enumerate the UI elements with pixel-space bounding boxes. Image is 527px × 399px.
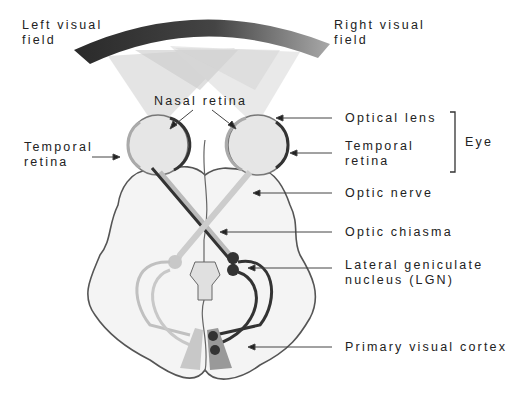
label-optic-chiasma: Optic chiasma bbox=[345, 225, 453, 240]
label-lgn: Lateral geniculate nucleus (LGN) bbox=[345, 258, 483, 288]
label-nasal-retina: Nasal retina bbox=[154, 94, 247, 109]
cortex-dot-a bbox=[208, 331, 218, 341]
cortex-dot-b bbox=[210, 345, 220, 355]
right-eye bbox=[226, 115, 288, 175]
label-eye: Eye bbox=[465, 135, 493, 150]
label-temporal-retina-left: Temporal retina bbox=[24, 140, 93, 170]
left-eye bbox=[128, 115, 190, 175]
lgn-left bbox=[168, 255, 182, 269]
label-optical-lens: Optical lens bbox=[345, 111, 437, 126]
label-left-visual-field: Left visual field bbox=[22, 18, 102, 48]
label-temporal-retina-right: Temporal retina bbox=[345, 139, 414, 169]
label-primary-visual-cortex: Primary visual cortex bbox=[345, 340, 507, 355]
lgn-right-b bbox=[227, 264, 239, 276]
label-right-visual-field: Right visual field bbox=[334, 18, 425, 48]
label-optic-nerve: Optic nerve bbox=[345, 186, 433, 201]
lgn-right-a bbox=[227, 252, 239, 264]
eye-bracket bbox=[450, 112, 455, 172]
